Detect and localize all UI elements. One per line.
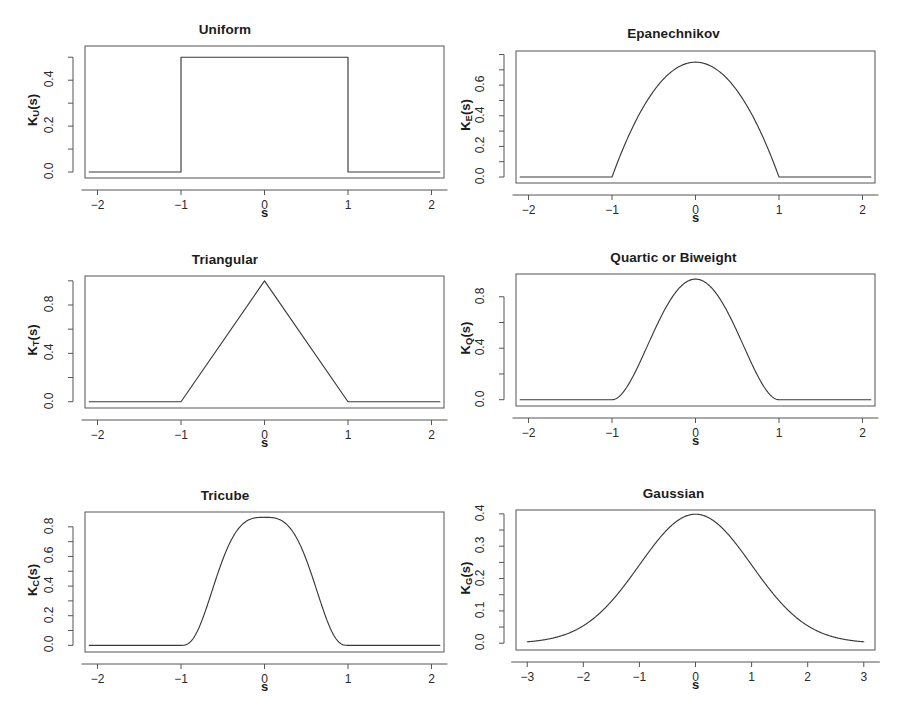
x-tick-label: 1: [759, 203, 799, 217]
panel-title: Quartic or Biweight: [450, 250, 897, 265]
panel-epanechnikov: Epanechnikov KE(s) s −2−10120.00.20.40.6: [450, 0, 897, 240]
y-axis-label-base: K: [25, 587, 40, 596]
y-tick-label: 0.2: [473, 560, 487, 596]
x-tick-label: −1: [161, 672, 201, 686]
y-axis-label-tail: (s): [458, 562, 473, 578]
x-tick-label: 1: [328, 428, 368, 442]
x-tick-label: −1: [619, 670, 659, 684]
y-tick-label: 0.4: [473, 97, 487, 133]
x-tick-label: 0: [676, 203, 716, 217]
panel-title: Triangular: [0, 252, 450, 267]
x-tick-label: 0: [245, 198, 285, 212]
x-tick-label: −2: [563, 670, 603, 684]
panel-title: Epanechnikov: [450, 26, 897, 41]
y-axis-label-base: K: [458, 585, 473, 594]
y-axis-label-base: K: [25, 117, 40, 126]
x-tick-label: −2: [78, 672, 118, 686]
x-tick-label: 0: [676, 670, 716, 684]
panel-uniform: Uniform KU(s) s −2−10120.00.20.4: [0, 0, 450, 240]
y-axis-label-tail: (s): [25, 94, 40, 110]
panel-title: Tricube: [0, 488, 450, 503]
y-tick-label: 0.4: [473, 495, 487, 531]
x-tick-label: 1: [732, 670, 772, 684]
y-tick-label: 0.4: [473, 329, 487, 365]
x-tick-label: 2: [411, 198, 451, 212]
panel-tricube: Tricube KC(s) s −2−10120.00.20.40.60.8: [0, 470, 450, 721]
x-tick-label: −1: [161, 428, 201, 442]
panel-quartic-biweight: Quartic or Biweight KQ(s) s −2−10120.00.…: [450, 240, 897, 470]
x-tick-label: 2: [842, 203, 882, 217]
y-axis-label-subscript: C: [30, 580, 41, 587]
x-tick-label: 2: [411, 672, 451, 686]
x-tick-label: −1: [161, 198, 201, 212]
x-tick-label: 0: [245, 672, 285, 686]
x-tick-label: 1: [759, 426, 799, 440]
y-axis-label: KQ(s): [458, 298, 474, 378]
y-tick-label: 0.2: [42, 107, 56, 143]
y-tick-label: 0.0: [473, 381, 487, 417]
panel-gaussian: Gaussian KG(s) s −3−2−101230.00.10.20.30…: [450, 470, 897, 721]
panel-title: Gaussian: [450, 486, 897, 501]
y-axis-label-tail: (s): [458, 322, 473, 338]
y-axis-label: KG(s): [458, 538, 474, 618]
y-tick-label: 0.4: [42, 61, 56, 97]
y-tick-label: 0.8: [42, 286, 56, 322]
y-tick-label: 0.0: [473, 624, 487, 660]
y-tick-label: 0.0: [42, 153, 56, 189]
x-tick-label: 0: [245, 428, 285, 442]
y-tick-label: 0.8: [473, 278, 487, 314]
y-tick-label: 0.8: [42, 508, 56, 544]
x-tick-label: −1: [592, 203, 632, 217]
y-axis-label-tail: (s): [25, 564, 40, 580]
x-tick-label: −3: [507, 670, 547, 684]
panel-title: Uniform: [0, 22, 450, 37]
y-axis-label-tail: (s): [458, 99, 473, 115]
y-tick-label: 0.3: [473, 527, 487, 563]
y-axis-label: KU(s): [25, 70, 41, 150]
y-tick-label: 0.1: [473, 592, 487, 628]
y-axis-label-tail: (s): [25, 324, 40, 340]
y-axis-label: KT(s): [25, 300, 41, 380]
x-tick-label: 3: [844, 670, 884, 684]
y-axis-label: KC(s): [25, 540, 41, 620]
x-tick-label: −2: [78, 198, 118, 212]
y-tick-label: 0.0: [42, 383, 56, 419]
y-axis-label: KE(s): [458, 75, 474, 155]
x-tick-label: 2: [842, 426, 882, 440]
x-tick-label: −1: [592, 426, 632, 440]
x-tick-label: −2: [509, 203, 549, 217]
x-tick-label: 0: [676, 426, 716, 440]
x-tick-label: 2: [788, 670, 828, 684]
x-tick-label: 1: [328, 198, 368, 212]
y-axis-label-subscript: U: [30, 110, 41, 117]
y-tick-label: 0.0: [473, 158, 487, 194]
x-tick-label: 1: [328, 672, 368, 686]
panel-triangular: Triangular KT(s) s −2−10120.00.40.8: [0, 240, 450, 470]
kernel-plot-figure: Uniform KU(s) s −2−10120.00.20.4 Epanech…: [0, 0, 897, 721]
x-tick-label: 2: [411, 428, 451, 442]
y-axis-label-base: K: [458, 345, 473, 354]
y-axis-label-base: K: [25, 346, 40, 355]
x-tick-label: −2: [509, 426, 549, 440]
x-tick-label: −2: [78, 428, 118, 442]
y-tick-label: 0.4: [42, 334, 56, 370]
y-tick-label: 0.6: [473, 66, 487, 102]
y-axis-label-subscript: T: [30, 340, 41, 346]
y-axis-label-base: K: [458, 121, 473, 130]
